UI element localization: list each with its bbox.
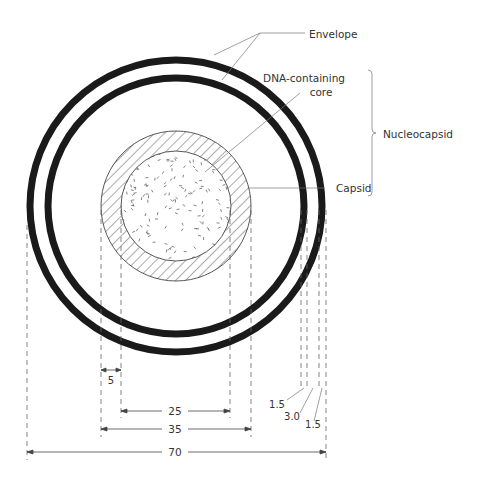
dim-total-diameter: 70 bbox=[168, 446, 181, 458]
virion-diagram: Envelope DNA-containing core Nucleocapsi… bbox=[0, 0, 478, 479]
core-label-line1: DNA-containing bbox=[263, 72, 345, 84]
dim-capsid-diameter: 35 bbox=[168, 423, 181, 435]
envelope-label: Envelope bbox=[309, 28, 357, 40]
dim-capsid-thickness: 5 bbox=[108, 375, 114, 386]
capsid-label: Capsid bbox=[336, 182, 371, 194]
core-label-line2: core bbox=[310, 86, 333, 98]
dim-core-diameter: 25 bbox=[168, 405, 181, 417]
dim-inner-membrane: 1.5 bbox=[269, 399, 285, 410]
dim-gap: 3.0 bbox=[284, 411, 300, 422]
dim-outer-membrane: 1.5 bbox=[305, 419, 321, 430]
nucleocapsid-label: Nucleocapsid bbox=[383, 128, 453, 140]
